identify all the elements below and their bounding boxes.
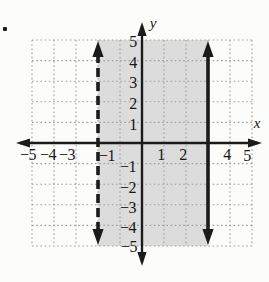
y-tick-neg1: −1 <box>120 159 136 175</box>
inequality-graph-figure: x y −5 −4 −3 −1 1 2 4 5 5 4 3 2 1 −1 −2 … <box>0 0 269 282</box>
y-tick-neg2: −2 <box>120 180 136 196</box>
x-tick-5: 5 <box>243 148 251 164</box>
y-tick-2: 2 <box>129 96 137 112</box>
y-tick-5: 5 <box>129 34 137 50</box>
y-axis-top-arrow-icon <box>137 22 146 36</box>
x-tick-4: 4 <box>223 147 231 163</box>
y-axis-bottom-arrow-icon <box>137 252 146 266</box>
y-axis-label: y <box>150 16 157 31</box>
y-tick-neg4: −4 <box>120 220 136 236</box>
x-tick-2: 2 <box>179 147 187 163</box>
y-tick-neg5: −5 <box>121 239 137 255</box>
x-tick-1: 1 <box>157 147 165 163</box>
x-tick-neg1: −1 <box>99 148 115 164</box>
y-tick-neg3: −3 <box>120 200 136 216</box>
x-tick-neg5: −5 <box>20 147 36 163</box>
x-tick-neg4: −4 <box>40 147 56 163</box>
x-axis-label: x <box>254 116 261 131</box>
y-tick-1: 1 <box>129 117 137 133</box>
x-tick-neg3: −3 <box>59 147 75 163</box>
y-tick-4: 4 <box>129 55 137 71</box>
y-tick-3: 3 <box>129 75 137 91</box>
